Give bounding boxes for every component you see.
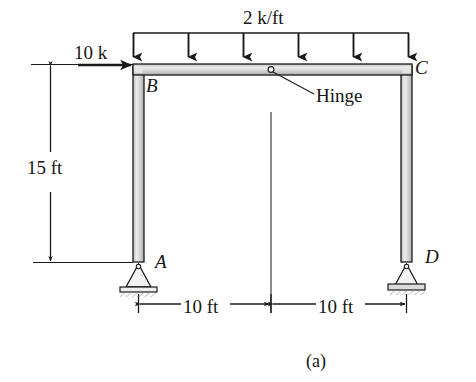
internal-hinge-marker	[268, 67, 274, 73]
span-right-dimension-label: 10 ft	[318, 297, 353, 316]
member-column-CD	[401, 66, 412, 262]
joint-label-c: C	[415, 58, 428, 77]
support-D-pin	[388, 264, 425, 295]
frame-members	[133, 64, 412, 262]
figure-caption: (a)	[306, 352, 326, 370]
member-column-AB	[133, 66, 144, 262]
frame-diagram-svg	[0, 0, 476, 382]
support-label-a: A	[155, 252, 167, 271]
point-load-label: 10 k	[74, 43, 107, 62]
height-dimension-label: 15 ft	[27, 158, 62, 177]
joint-label-b: B	[146, 76, 158, 95]
span-left-dimension-label: 10 ft	[183, 297, 218, 316]
figure-container: 2 k/ft 10 k B C Hinge A D 15 ft 10 ft 10…	[0, 0, 476, 382]
support-label-d: D	[425, 247, 439, 266]
hinge-label: Hinge	[316, 86, 362, 105]
support-A-pin	[120, 264, 157, 297]
span-dimensions	[139, 294, 407, 313]
distributed-load-group	[133, 33, 409, 57]
distributed-load-label: 2 k/ft	[243, 8, 284, 27]
